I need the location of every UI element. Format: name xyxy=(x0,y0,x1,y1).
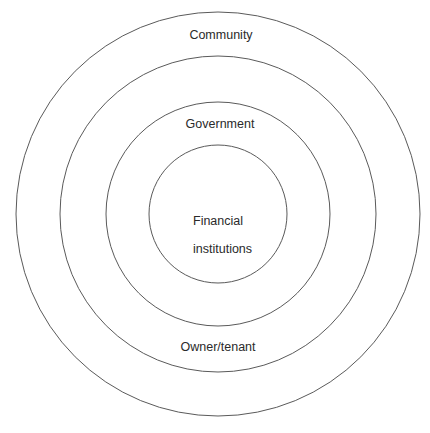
label-financial-institutions: Financial institutions xyxy=(193,200,252,270)
label-government: Government xyxy=(186,117,255,131)
label-financial-line1: Financial xyxy=(193,214,252,228)
label-financial-line2: institutions xyxy=(193,242,252,256)
label-community: Community xyxy=(189,28,252,42)
label-owner-tenant: Owner/tenant xyxy=(180,340,255,354)
